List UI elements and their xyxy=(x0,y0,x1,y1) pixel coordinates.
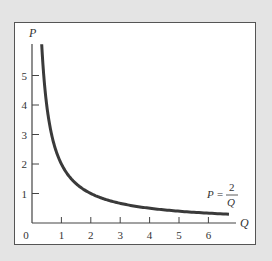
demand-curve-chart: 012345612345 P Q P = 2 Q xyxy=(0,0,272,261)
x-tick-label: 2 xyxy=(88,229,94,241)
x-tick-label: 3 xyxy=(117,229,123,241)
axes xyxy=(32,44,236,223)
x-axis-label: Q xyxy=(240,216,249,230)
ticks: 012345612345 xyxy=(22,70,212,242)
x-tick-label: 6 xyxy=(206,229,212,241)
y-tick-label: 3 xyxy=(22,129,28,141)
x-tick-label: 4 xyxy=(147,229,153,241)
y-tick-label: 2 xyxy=(22,158,28,170)
y-axis-label: P xyxy=(28,26,37,40)
x-tick-label: 0 xyxy=(23,229,29,241)
annotation-numerator: 2 xyxy=(229,181,235,193)
annotation-lhs: P = xyxy=(206,188,224,200)
curve-p-equals-2-over-q xyxy=(42,44,229,214)
y-tick-label: 1 xyxy=(22,188,28,200)
curve-annotation: P = 2 Q xyxy=(206,181,238,208)
x-tick-label: 1 xyxy=(59,229,65,241)
annotation-denominator: Q xyxy=(227,196,235,208)
x-tick-label: 5 xyxy=(176,229,182,241)
y-tick-label: 4 xyxy=(22,99,28,111)
y-tick-label: 5 xyxy=(22,70,28,82)
